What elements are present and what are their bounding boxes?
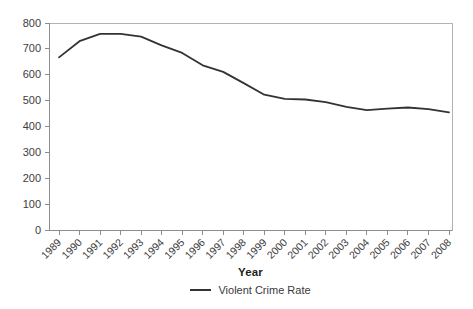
x-tick-label: 1998 xyxy=(223,236,248,261)
plot-frame xyxy=(49,23,452,230)
x-tick-label: 1991 xyxy=(79,236,104,261)
chart-page: 0100200300400500600700800198919901991199… xyxy=(0,0,473,309)
x-tick-label: 2004 xyxy=(346,236,371,261)
x-tick-label: 1992 xyxy=(100,236,125,261)
x-tick-label: 2003 xyxy=(326,236,351,261)
y-tick-label: 100 xyxy=(23,198,41,210)
x-tick-label: 2000 xyxy=(264,236,289,261)
x-tick-label: 2007 xyxy=(408,236,433,261)
x-tick-label: 1993 xyxy=(121,236,146,261)
legend: Violent Crime Rate xyxy=(49,284,452,296)
x-tick-label: 2008 xyxy=(428,236,453,261)
y-tick-label: 700 xyxy=(23,42,41,54)
x-tick-label: 1989 xyxy=(38,236,63,261)
x-tick-label: 2005 xyxy=(367,236,392,261)
legend-line-swatch xyxy=(190,289,211,291)
y-tick-label: 300 xyxy=(23,146,41,158)
x-tick-label: 2001 xyxy=(285,236,310,261)
x-tick-label: 1994 xyxy=(141,236,166,261)
x-tick-label: 2006 xyxy=(387,236,412,261)
violent-crime-rate-line xyxy=(59,34,449,113)
legend-label: Violent Crime Rate xyxy=(218,284,310,296)
y-tick-label: 0 xyxy=(35,224,41,236)
x-tick-label: 1990 xyxy=(59,236,84,261)
y-tick-label: 500 xyxy=(23,94,41,106)
x-tick-label: 2002 xyxy=(305,236,330,261)
violent-crime-line-chart: 0100200300400500600700800198919901991199… xyxy=(0,0,473,266)
x-tick-label: 1995 xyxy=(162,236,187,261)
y-tick-label: 600 xyxy=(23,68,41,80)
x-axis-title: Year xyxy=(49,266,452,278)
y-tick-label: 200 xyxy=(23,172,41,184)
x-tick-label: 1997 xyxy=(203,236,228,261)
x-tick-label: 1999 xyxy=(244,236,269,261)
y-tick-label: 800 xyxy=(23,17,41,29)
y-tick-label: 400 xyxy=(23,120,41,132)
x-tick-label: 1996 xyxy=(182,236,207,261)
